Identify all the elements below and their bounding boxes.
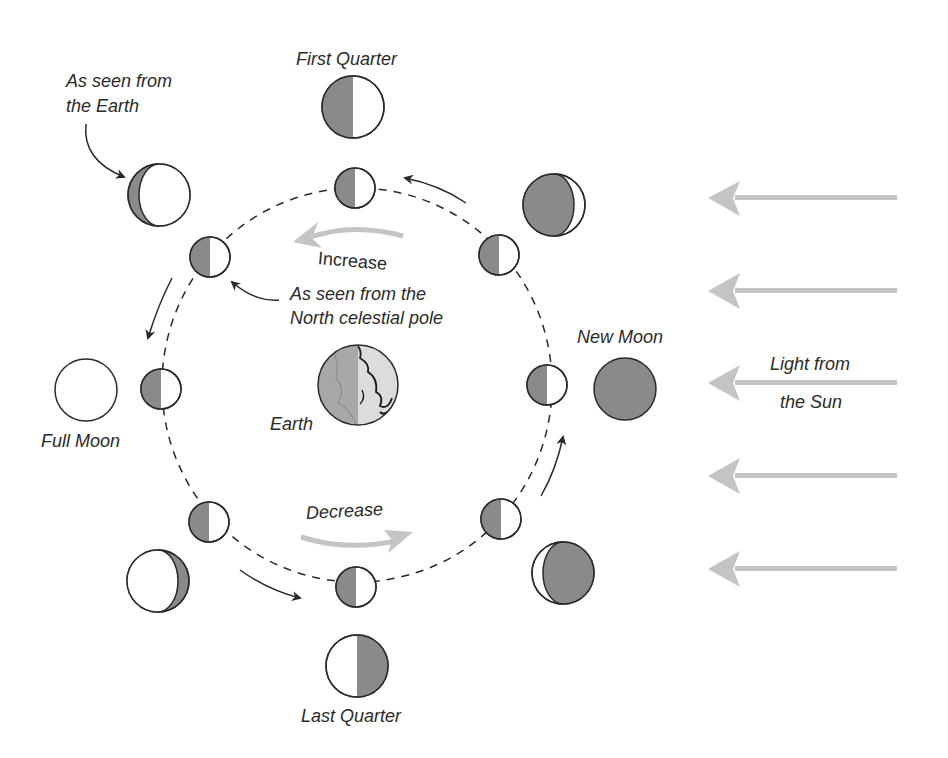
sunlight-arrows [708, 181, 897, 587]
waning-gibbous-moon [127, 550, 189, 612]
increase-arrow [293, 222, 403, 248]
earth-globe [318, 345, 398, 425]
orbit-moon-left [141, 369, 181, 409]
new-moon-label: New Moon [577, 326, 663, 348]
orbit-moon-top-left [190, 237, 230, 277]
decrease-label: Decrease [305, 498, 383, 524]
decrease-arrow [301, 530, 413, 553]
seen-from-earth-label-line1: As seen from [66, 70, 172, 92]
sun-arrow-4 [708, 458, 897, 494]
orbit-moon-bottom [336, 567, 376, 607]
earth-label: Earth [270, 413, 313, 435]
orbit-moon-bottom-left [189, 502, 229, 542]
light-from-label: Light from [770, 353, 850, 375]
orbit-moon-top [335, 168, 375, 208]
seen-from-pole-label-line2: North celestial pole [290, 307, 443, 329]
waning-crescent-moon [532, 542, 594, 604]
waxing-gibbous-moon [128, 164, 190, 226]
last-quarter-moon [326, 635, 388, 697]
seen-from-pole-label-line1: As seen from the [290, 283, 426, 305]
first-quarter-label: First Quarter [296, 48, 397, 70]
orbit-moon-bottom-right [481, 499, 521, 539]
sun-arrow-2 [708, 273, 897, 309]
last-quarter-label: Last Quarter [301, 705, 401, 727]
moon-phases-diagram [0, 0, 948, 758]
first-quarter-moon [322, 76, 384, 138]
orbit-moon-top-right [479, 235, 519, 275]
sun-arrow-5 [708, 551, 897, 587]
the-sun-label: the Sun [780, 391, 842, 413]
seen-from-earth-label-line2: the Earth [66, 95, 139, 117]
new-moon [594, 358, 656, 420]
orbit-moon-right [527, 365, 567, 405]
sun-arrow-1 [708, 181, 897, 216]
waxing-crescent-moon [523, 174, 585, 236]
full-moon [55, 359, 117, 421]
full-moon-label: Full Moon [41, 430, 120, 452]
